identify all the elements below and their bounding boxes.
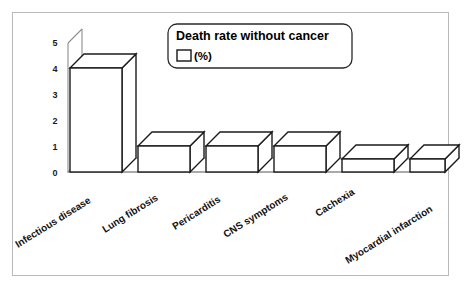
category-label-lung-fibrosis: Lung fibrosis [100,192,160,235]
chart-container: 5 4 3 2 1 0 [0,0,467,289]
category-label-pericarditis: Pericarditis [170,193,222,231]
legend-swatch-percent [177,50,191,61]
bar-lung-fibrosis [138,132,204,172]
y-tick-label-5: 5 [52,38,57,48]
bar-infectious-disease [70,54,136,172]
category-label-infectious-disease: Infectious disease [13,194,93,250]
bar-front-face [70,68,122,172]
legend[interactable]: Death rate without cancer (%) [168,24,352,68]
y-tick-label-1: 1 [52,142,57,152]
category-label-cns-symptoms: CNS symptoms [221,191,290,240]
category-label-cachexia: Cachexia [313,186,356,219]
bar-pericarditis [206,132,272,172]
bar-front-face [206,146,258,172]
y-tick-label-2: 2 [52,116,57,126]
y-axis-depth-edge [68,29,82,43]
bar-front-face [342,159,394,172]
category-label-myocardial-infarction: Myocardial infarction [343,203,434,266]
legend-title: Death rate without cancer [176,29,329,43]
bar-front-face [274,146,326,172]
legend-entry-label: (%) [194,50,212,62]
bar-front-face [138,146,190,172]
y-tick-label-4: 4 [52,64,57,74]
bar-side-face [122,54,136,172]
bar-cachexia [342,145,408,172]
y-tick-label-3: 3 [52,90,57,100]
bar-chart-plot: 5 4 3 2 1 0 [0,0,467,289]
bar-front-face [410,159,445,172]
bar-cns-symptoms [274,132,340,172]
y-tick-label-0: 0 [52,168,57,178]
bar-myocardial-infarction [410,145,459,172]
